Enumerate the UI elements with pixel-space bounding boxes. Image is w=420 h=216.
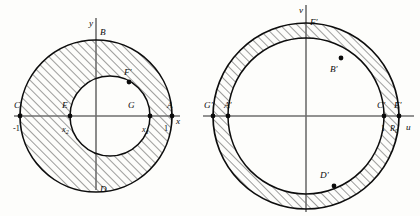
label-point-E-prime: E' — [393, 100, 403, 110]
point-B-prime-marker — [339, 56, 344, 61]
label-point-F-prime: F' — [309, 17, 319, 27]
label-point-B-prime: B' — [330, 64, 339, 74]
right-panel-w-plane: v u F' G' A' C' E' B' D' 1 R0 — [0, 0, 420, 216]
point-D-prime-marker — [332, 184, 337, 189]
label-u-axis: u — [406, 122, 411, 132]
point-E-prime-marker — [397, 114, 402, 119]
tick-R0-sub: 0 — [395, 128, 398, 134]
label-point-D-prime: D' — [319, 170, 330, 180]
point-C-prime-marker — [382, 114, 387, 119]
label-point-A-prime: A' — [223, 100, 233, 110]
figure-container: y x B D C A E G F' -1 1 x1 x2 — [0, 0, 420, 216]
label-point-C-prime: C' — [377, 100, 386, 110]
point-A-prime-marker — [226, 114, 231, 119]
tick-unit-radius: 1 — [381, 124, 385, 133]
label-point-G-prime: G' — [204, 100, 214, 110]
point-G-prime-marker — [211, 114, 216, 119]
